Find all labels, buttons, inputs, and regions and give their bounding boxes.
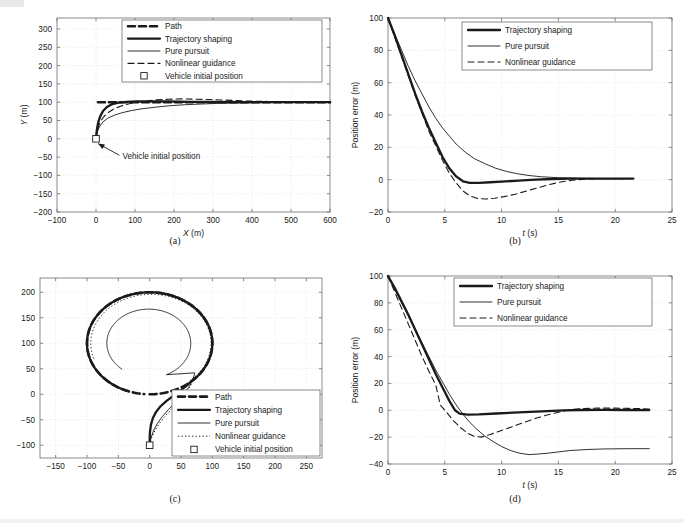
svg-text:10: 10 <box>497 216 507 225</box>
svg-text:−150: −150 <box>46 462 65 471</box>
svg-text:Nonlinear guidance: Nonlinear guidance <box>215 432 286 441</box>
svg-text:Y (m): Y (m) <box>19 104 29 125</box>
svg-text:Pure pursuit: Pure pursuit <box>165 47 210 56</box>
svg-text:25: 25 <box>667 468 677 477</box>
svg-text:40: 40 <box>374 353 384 362</box>
svg-text:Pure pursuit: Pure pursuit <box>505 42 550 51</box>
svg-text:Path: Path <box>165 22 182 31</box>
svg-text:100: 100 <box>38 98 52 107</box>
svg-text:−100: −100 <box>78 462 97 471</box>
svg-text:Position error (m): Position error (m) <box>350 82 360 149</box>
svg-text:−20: −20 <box>369 208 383 217</box>
caption-c: (c) <box>115 493 235 504</box>
svg-text:0: 0 <box>386 468 391 477</box>
svg-text:−50: −50 <box>38 153 52 162</box>
svg-text:−150: −150 <box>34 190 53 199</box>
svg-text:Vehicle initial position: Vehicle initial position <box>165 72 243 81</box>
annotation-arrowhead <box>98 144 105 149</box>
svg-text:80: 80 <box>374 299 384 308</box>
svg-text:150: 150 <box>237 462 251 471</box>
svg-text:Pure pursuit: Pure pursuit <box>497 298 542 307</box>
caption-d: (d) <box>455 493 575 504</box>
svg-text:60: 60 <box>374 79 384 88</box>
annotation-label: Vehicle initial position <box>122 152 200 161</box>
svg-text:150: 150 <box>38 80 52 89</box>
svg-text:5: 5 <box>443 468 448 477</box>
panel-c: −150−100−50050100150200250−100−500501001… <box>0 258 342 508</box>
svg-text:5: 5 <box>443 216 448 225</box>
svg-text:0: 0 <box>147 462 152 471</box>
svg-text:10: 10 <box>497 468 507 477</box>
svg-text:0: 0 <box>378 406 383 415</box>
vehicle-initial-position-marker <box>93 135 100 142</box>
svg-text:80: 80 <box>374 46 384 55</box>
panel-b: 0510152025−20020406080100t (s)Position e… <box>342 0 684 250</box>
svg-text:200: 200 <box>38 62 52 71</box>
svg-text:100: 100 <box>369 14 383 23</box>
svg-text:100: 100 <box>21 339 35 348</box>
svg-text:−20: −20 <box>369 433 383 442</box>
svg-text:Nonlinear guidance: Nonlinear guidance <box>497 314 568 323</box>
svg-text:Pure pursuit: Pure pursuit <box>215 419 260 428</box>
svg-text:Trajectory shaping: Trajectory shaping <box>165 35 232 44</box>
svg-text:20: 20 <box>611 216 621 225</box>
svg-text:0: 0 <box>30 390 35 399</box>
svg-text:0: 0 <box>94 216 99 225</box>
svg-text:15: 15 <box>554 216 564 225</box>
svg-text:−50: −50 <box>111 462 125 471</box>
svg-text:150: 150 <box>21 314 35 323</box>
vehicle-initial-position-marker <box>146 442 153 449</box>
svg-text:t (s): t (s) <box>523 480 538 490</box>
svg-text:0: 0 <box>386 216 391 225</box>
svg-text:500: 500 <box>284 216 298 225</box>
svg-text:−40: −40 <box>369 460 383 469</box>
svg-text:300: 300 <box>206 216 220 225</box>
legend-square-marker-icon <box>141 73 147 79</box>
svg-text:20: 20 <box>611 468 621 477</box>
svg-text:0: 0 <box>47 135 52 144</box>
svg-text:−200: −200 <box>34 208 53 217</box>
scan-artifact-bottom <box>0 519 684 523</box>
svg-text:Trajectory shaping: Trajectory shaping <box>215 406 282 415</box>
svg-text:Position error (m): Position error (m) <box>350 337 360 404</box>
svg-text:250: 250 <box>38 43 52 52</box>
svg-text:15: 15 <box>554 468 564 477</box>
svg-text:50: 50 <box>43 116 53 125</box>
svg-text:20: 20 <box>374 379 384 388</box>
legend-square-marker-icon <box>191 446 197 452</box>
panel-d: 0510152025−40−20020406080100t (s)Positio… <box>342 258 684 508</box>
svg-text:Nonlinear guidance: Nonlinear guidance <box>505 58 576 67</box>
svg-text:−100: −100 <box>48 216 67 225</box>
svg-text:200: 200 <box>167 216 181 225</box>
svg-text:Nonlinear guidance: Nonlinear guidance <box>165 59 236 68</box>
svg-text:400: 400 <box>245 216 259 225</box>
svg-text:Trajectory shaping: Trajectory shaping <box>497 282 564 291</box>
svg-text:25: 25 <box>667 216 677 225</box>
svg-text:300: 300 <box>38 25 52 34</box>
svg-text:0: 0 <box>378 176 383 185</box>
svg-text:250: 250 <box>299 462 313 471</box>
svg-text:100: 100 <box>205 462 219 471</box>
svg-text:−100: −100 <box>34 171 53 180</box>
svg-text:Path: Path <box>215 393 232 402</box>
svg-text:Vehicle initial position: Vehicle initial position <box>215 445 293 454</box>
svg-text:100: 100 <box>128 216 142 225</box>
figure-canvas: −1000100200300400500600−200−150−100−5005… <box>0 0 684 523</box>
svg-text:−100: −100 <box>17 441 36 450</box>
svg-text:600: 600 <box>323 216 337 225</box>
panel-a: −1000100200300400500600−200−150−100−5005… <box>0 0 342 250</box>
svg-text:Trajectory shaping: Trajectory shaping <box>505 26 572 35</box>
svg-text:−50: −50 <box>21 416 35 425</box>
svg-text:100: 100 <box>369 272 383 281</box>
svg-text:20: 20 <box>374 143 384 152</box>
svg-text:200: 200 <box>268 462 282 471</box>
svg-text:60: 60 <box>374 326 384 335</box>
caption-a: (a) <box>115 235 235 246</box>
caption-b: (b) <box>455 235 575 246</box>
svg-text:50: 50 <box>176 462 186 471</box>
svg-text:40: 40 <box>374 111 384 120</box>
svg-text:50: 50 <box>26 365 36 374</box>
svg-text:200: 200 <box>21 288 35 297</box>
